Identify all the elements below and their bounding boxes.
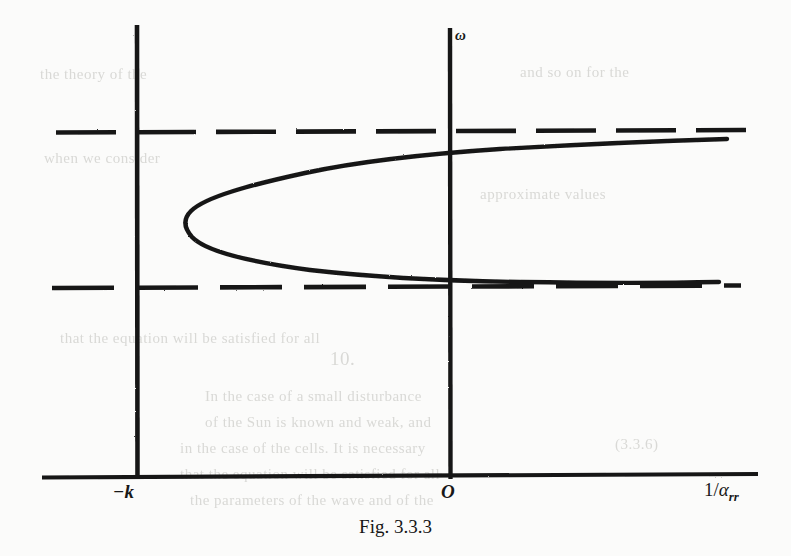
minus-k-tick-label: −k: [113, 481, 134, 503]
omega-axis-line: [450, 28, 451, 479]
x-axis-line: [42, 474, 758, 478]
origin-label: O: [441, 481, 455, 503]
alpha-subscript: rr: [729, 489, 739, 504]
figure-page: the theory of the and so on for the when…: [0, 0, 791, 556]
alpha-symbol: α: [719, 479, 729, 500]
lower-asymptote-dashed-line: [52, 286, 741, 289]
figure-caption: Fig. 3.3.3: [0, 516, 791, 538]
x-axis-label: 1/αrr: [704, 479, 739, 505]
upper-asymptote-dashed-line: [56, 130, 746, 133]
dispersion-curve: [185, 139, 727, 283]
plot-area: [0, 0, 791, 556]
x-axis-label-numerator: 1/: [704, 479, 719, 500]
minus-k-vertical-line: [137, 25, 138, 479]
omega-axis-label: ω: [455, 27, 466, 44]
